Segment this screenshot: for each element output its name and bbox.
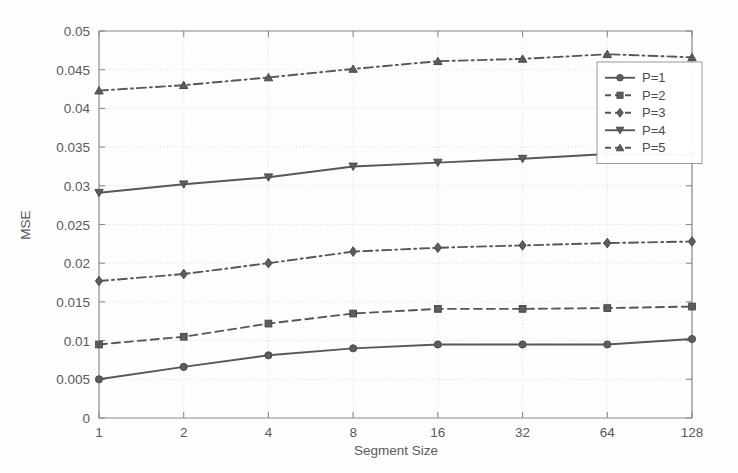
series-line [99,242,692,281]
x-tick-label: 64 [600,425,616,440]
y-tick-label: 0.005 [56,372,90,387]
data-point-marker [604,341,611,348]
data-point-marker [617,92,623,98]
series-p3 [95,237,695,286]
y-tick-label: 0.035 [56,140,90,155]
x-tick-label: 4 [265,425,273,440]
data-point-marker [688,335,695,342]
series-p1 [95,335,695,382]
legend-label: P=5 [642,140,666,155]
y-tick-label: 0.02 [64,256,90,271]
y-tick-label: 0.03 [64,179,90,194]
legend-label: P=1 [642,70,666,85]
data-point-marker [519,306,526,313]
data-point-marker [96,341,103,348]
data-point-marker [265,352,272,359]
data-point-marker [180,333,187,340]
series-line [99,307,692,345]
data-point-marker [350,310,357,317]
x-tick-label: 1 [95,425,103,440]
data-point-marker [434,306,441,313]
data-point-marker [688,237,695,247]
y-tick-label: 0.01 [64,334,90,349]
x-axis-title: Segment Size [354,443,438,458]
x-tick-label: 32 [515,425,530,440]
y-axis-title: MSE [18,210,33,239]
y-tick-label: 0.015 [56,295,90,310]
y-tick-label: 0.04 [64,101,91,116]
mse-vs-segment-size-line-chart: 00.0050.010.0150.020.0250.030.0350.040.0… [0,0,738,473]
data-point-marker [689,303,696,310]
y-tick-label: 0.045 [56,63,90,78]
data-point-marker [519,341,526,348]
data-point-marker [180,363,187,370]
data-point-marker [434,341,441,348]
y-tick-label: 0.025 [56,218,90,233]
data-point-marker [604,238,611,248]
legend: P=1P=2P=3P=4P=5 [597,62,702,164]
data-point-marker [434,243,441,253]
data-point-marker [519,241,526,251]
data-point-marker [604,305,611,312]
data-point-marker [350,247,357,257]
legend-label: P=3 [642,105,666,120]
y-tick-label: 0 [82,411,90,426]
legend-label: P=4 [642,123,666,138]
data-point-marker [617,75,623,81]
chart-figure: 00.0050.010.0150.020.0250.030.0350.040.0… [0,0,738,473]
y-tick-label: 0.05 [64,24,90,39]
data-point-marker [95,376,102,383]
data-point-marker [265,320,272,327]
x-tick-label: 2 [180,425,188,440]
x-tick-label: 16 [430,425,445,440]
data-point-marker [350,345,357,352]
x-tick-label: 8 [349,425,357,440]
legend-label: P=2 [642,88,666,103]
data-point-marker [95,276,102,286]
data-point-marker [180,269,187,279]
series-line [99,339,692,379]
data-point-marker [265,258,272,268]
x-tick-label: 128 [681,425,704,440]
